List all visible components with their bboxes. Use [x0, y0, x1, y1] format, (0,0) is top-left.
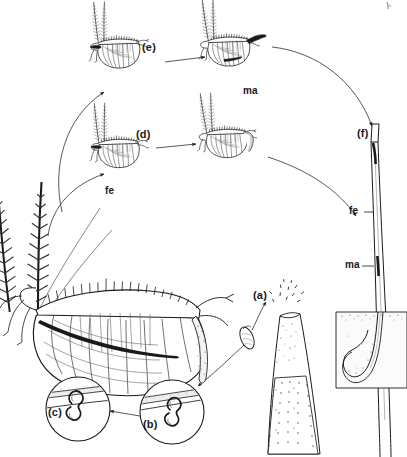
inset-b	[140, 380, 207, 444]
label-stage-a: (a)	[253, 290, 267, 301]
feather-quill	[268, 279, 320, 454]
arrow-d-to-female	[156, 144, 196, 148]
louse-e	[89, 2, 150, 69]
label-stage-d: (d)	[136, 129, 151, 140]
label-male-upper: ma	[243, 86, 258, 96]
fe-marker	[373, 143, 376, 164]
label-stage-f: (f)	[357, 128, 369, 139]
label-female-lower: fe	[105, 186, 114, 196]
louse-female	[197, 93, 257, 158]
hair-shaft	[362, 124, 391, 457]
label-stage-b: (b)	[143, 419, 158, 430]
label-stage-c: (c)	[48, 407, 62, 418]
arc-central-to-e	[59, 92, 104, 212]
label-stage-e: (e)	[142, 42, 156, 53]
label-male-shaft: ma	[345, 260, 360, 270]
debris-spray	[269, 279, 304, 302]
specimen-thorax	[36, 290, 200, 318]
life-cycle-figure: (e) ma (d) fe (f) fe ma (a) (c) (b)	[0, 0, 407, 457]
central-specimen	[0, 182, 234, 396]
arrow-b-to-c	[110, 411, 140, 416]
arc-central-to-d	[48, 174, 104, 236]
arc-female-to-shaft	[268, 157, 356, 216]
label-female-shaft: fe	[349, 206, 358, 216]
arrow-egg-to-a	[252, 302, 266, 330]
louse-male	[199, 0, 266, 66]
skin-follicle	[336, 312, 407, 388]
arc-male-to-shaft	[272, 47, 372, 126]
arrow-e-to-male	[165, 57, 205, 62]
scan-artifact	[387, 2, 391, 9]
ma-marker	[377, 256, 378, 276]
figure-canvas	[0, 0, 407, 457]
egg-capsule	[237, 325, 257, 351]
